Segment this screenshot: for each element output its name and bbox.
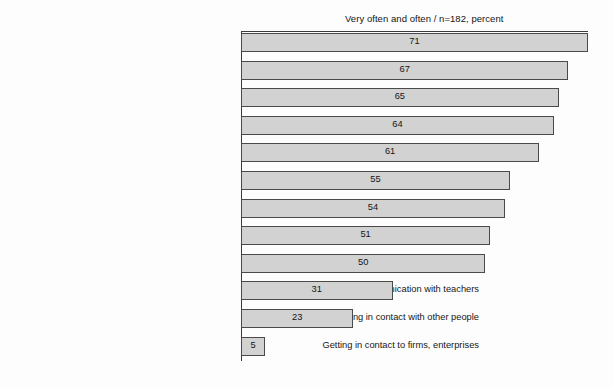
chart-bar-row: Preparing for examina55	[241, 169, 613, 197]
bar-value-label: 61	[385, 146, 395, 156]
bar-value-label: 71	[409, 36, 419, 46]
bar-value-label: 23	[292, 312, 302, 322]
chart-bar-row: Getting in contact with other people23	[241, 307, 613, 335]
chart-bar-row: Solving exercises collaborat65	[241, 86, 613, 114]
chart-bar-row: Helping other students51	[241, 224, 613, 252]
plot-area: Subject-specific questions about cou71Sh…	[241, 31, 613, 361]
chart-bar-row: Communication with teachers31	[241, 279, 613, 307]
bar-value-label: 50	[358, 257, 368, 267]
chart-bar-row: Asking sth. about exerc61	[241, 141, 613, 169]
bar-value-label: 54	[368, 202, 378, 212]
chart-bar-row: Asking organizational issues for lecture…	[241, 252, 613, 280]
chart-bar-row: Knowledge exchange with stuc54	[241, 197, 613, 225]
chart-bar-row: Sharing information about lectures, tutc…	[241, 59, 613, 87]
horizontal-bar-chart: Very often and often / n=182, percent Su…	[0, 0, 613, 387]
chart-title: Very often and often / n=182, percent	[345, 13, 545, 24]
bar-value-label: 5	[251, 340, 256, 350]
bar-value-label: 51	[360, 229, 370, 239]
chart-bar-row: Getting in contact to firms, enterprises…	[241, 335, 613, 363]
bar-value-label: 55	[370, 174, 380, 184]
bar-value-label: 67	[400, 64, 410, 74]
chart-bar-row: Subject-specific questions about cou71	[241, 31, 613, 59]
bar-value-label: 31	[312, 284, 322, 294]
bar-value-label: 65	[395, 91, 405, 101]
bar-value-label: 64	[392, 119, 402, 129]
chart-bar-row: Learning to handle different opir64	[241, 114, 613, 142]
